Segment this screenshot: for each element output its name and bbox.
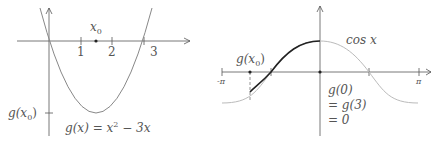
equation-line-3: = 0 — [328, 113, 350, 127]
neg-pi-label: -π — [217, 77, 226, 86]
x0-label: x0 — [90, 20, 102, 36]
equation-line-1: g(0) — [328, 83, 353, 97]
g-x0-label-right: g(x0) — [236, 52, 265, 68]
left-plot: x0 1 2 3 g(x0) g(x) = x2 − 3x — [8, 8, 190, 136]
parabola-formula: g(x) = x2 − 3x — [65, 120, 151, 135]
pos-pi-label: π — [415, 77, 422, 86]
g-x0-axis-label: g(x0) — [8, 106, 37, 122]
diagram-canvas: x0 1 2 3 g(x0) g(x) = x2 − 3x cos x g(x0… — [0, 0, 444, 146]
right-plot: cos x g(x0) -π π g(0) = g(3) = 0 — [217, 6, 431, 136]
x0-point — [94, 39, 97, 42]
tick-label-1: 1 — [77, 45, 85, 59]
origin-point — [318, 70, 321, 73]
cos-label: cos x — [346, 33, 377, 47]
tick-label-2: 2 — [108, 45, 116, 59]
x0-point-right — [248, 70, 251, 73]
tick-label-3: 3 — [150, 45, 158, 59]
equation-line-2: = g(3) — [328, 98, 367, 112]
cos-bold-segment — [250, 41, 320, 92]
